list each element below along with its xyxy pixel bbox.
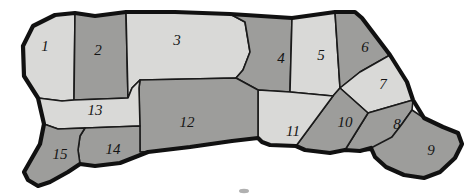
cut-label-13: 13 [88, 102, 103, 118]
cut-label-2: 2 [94, 42, 102, 58]
cut-region-5[interactable] [290, 12, 340, 96]
cut-label-6: 6 [361, 39, 369, 55]
cut-label-8: 8 [393, 116, 401, 132]
cut-label-10: 10 [338, 114, 354, 130]
cut-regions-group [23, 12, 462, 186]
cut-label-5: 5 [317, 47, 325, 63]
butchery-cuts-figure: 1 2 3 4 5 6 7 8 9 10 11 12 13 14 15 [0, 0, 471, 196]
cut-label-14: 14 [106, 141, 122, 157]
cut-label-11: 11 [286, 123, 300, 139]
cut-label-15: 15 [53, 146, 69, 162]
butchery-diagram-container: 1 2 3 4 5 6 7 8 9 10 11 12 13 14 15 [0, 0, 471, 196]
cut-label-4: 4 [277, 50, 285, 66]
cut-label-9: 9 [427, 142, 435, 158]
cut-label-12: 12 [180, 114, 196, 130]
scan-smudge-mark [239, 189, 249, 193]
cut-label-3: 3 [172, 32, 181, 48]
cut-label-1: 1 [41, 38, 49, 54]
page-smudge-group [239, 189, 249, 193]
